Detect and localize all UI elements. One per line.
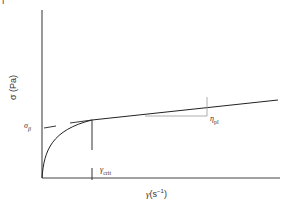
bingham-line <box>92 100 278 120</box>
x-axis-close: ) <box>164 189 167 199</box>
y-axis-label: σ (Pa) <box>8 75 18 100</box>
critical-shear-rate-label: γcrit <box>100 165 111 176</box>
x-axis-exp: −1 <box>157 188 164 194</box>
yield-stress-sub: β <box>28 126 31 132</box>
yield-extrapolation <box>44 126 56 128</box>
flow-curve <box>42 120 92 178</box>
eta-sub: pl <box>214 119 219 125</box>
plastic-viscosity-label: ηpl <box>210 114 219 125</box>
flow-curve-diagram <box>0 0 295 206</box>
yield-extrapolation-2 <box>70 120 92 123</box>
x-axis-label: γ(s−1) <box>146 188 167 199</box>
x-axis-unit: (s <box>150 189 158 199</box>
gamma-crit-sub: crit <box>103 170 111 176</box>
yield-stress-label: σβ <box>24 121 31 132</box>
